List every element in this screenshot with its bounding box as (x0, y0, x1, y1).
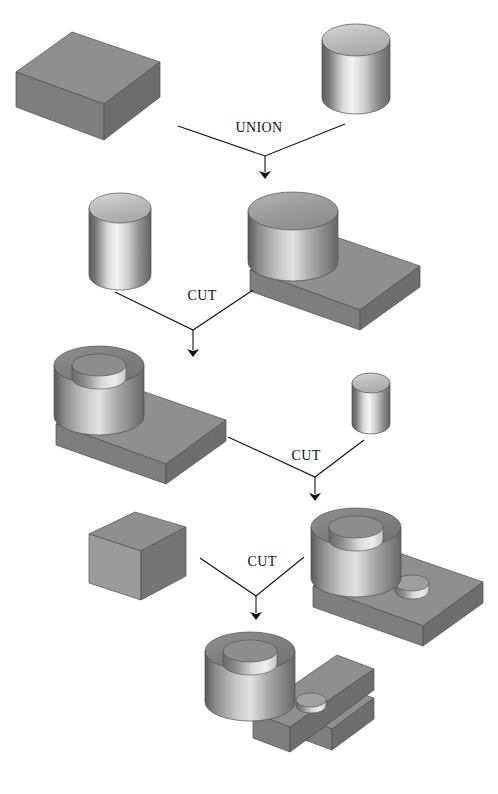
shape-two-holes (311, 508, 483, 646)
operation-label-union: UNION (235, 120, 282, 135)
operation-label-cut-2: CUT (291, 448, 320, 463)
shape-union-result (248, 192, 420, 330)
shape-block-slab (16, 32, 160, 140)
operation-label-cut-3: CUT (247, 554, 276, 569)
shape-cylinder-tool-1 (89, 193, 151, 290)
shape-block-tool (89, 512, 186, 600)
shape-bored-boss (54, 346, 226, 484)
operation-label-cut-1: CUT (187, 288, 216, 303)
arrow-cut-1 (115, 290, 253, 350)
shape-cylinder-large (322, 24, 390, 114)
shape-cylinder-tool-2 (352, 373, 390, 434)
shape-final (205, 632, 374, 752)
csg-sequence-diagram: UNION CUT (0, 0, 498, 794)
figure-canvas: UNION CUT (0, 0, 498, 794)
arrow-cut-2 (228, 437, 364, 494)
